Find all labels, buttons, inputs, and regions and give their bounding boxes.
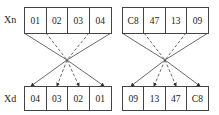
- byte-cell: 04: [90, 8, 111, 33]
- byte-cell: 47: [166, 87, 187, 110]
- byte-cell: 09: [123, 87, 144, 110]
- xn-left-register: 01 02 03 04: [24, 7, 112, 34]
- byte-cell: 04: [25, 87, 47, 110]
- byte-cell: 13: [166, 8, 187, 33]
- byte-cell: C8: [187, 87, 208, 110]
- xn-right-register: C8 47 13 09: [122, 7, 209, 34]
- xd-right-register: 09 13 47 C8: [122, 86, 209, 111]
- byte-cell: 03: [68, 8, 90, 33]
- byte-cell: 01: [90, 87, 111, 110]
- byte-cell: 47: [144, 8, 165, 33]
- byte-cell: 02: [47, 8, 69, 33]
- byte-cell: 09: [187, 8, 208, 33]
- byte-cell: 01: [25, 8, 47, 33]
- byte-cell: 03: [47, 87, 69, 110]
- byte-cell: 02: [68, 87, 90, 110]
- byte-cell: 13: [144, 87, 165, 110]
- byte-cell: C8: [123, 8, 144, 33]
- xd-left-register: 04 03 02 01: [24, 86, 112, 111]
